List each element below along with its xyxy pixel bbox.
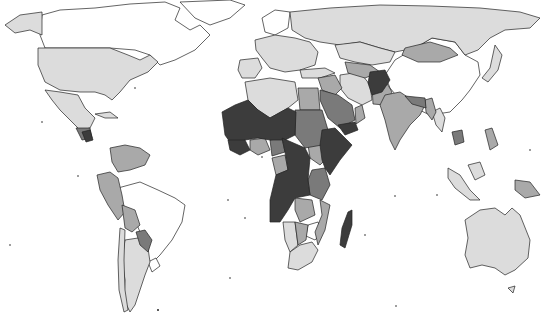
region-mexico [45,90,95,130]
region-cuba [95,112,118,118]
region-guinea-coast [228,140,250,155]
region-zambia [295,198,315,222]
region-kenya-tanzania [308,168,330,200]
region-madagascar [340,210,352,248]
region-horn-of-africa [320,128,352,175]
region-scandinavia [262,10,290,35]
region-png [515,180,540,198]
region-borneo [468,162,485,180]
region-ghana-ivory [250,138,270,155]
world-choropleth-map [0,0,549,331]
region-iberia [238,58,262,78]
region-peru [97,172,125,220]
region-europe [255,35,318,72]
region-australia [465,208,530,275]
region-colombia-venezuela [110,145,150,172]
region-nicaragua [82,130,93,142]
region-japan [482,45,502,82]
region-egypt [298,88,320,110]
region-oman [355,105,365,124]
region-cambodia [452,130,464,145]
region-greenland [180,0,245,25]
region-alaska [5,12,42,35]
region-tasmania [508,286,515,293]
region-philippines [485,128,498,150]
